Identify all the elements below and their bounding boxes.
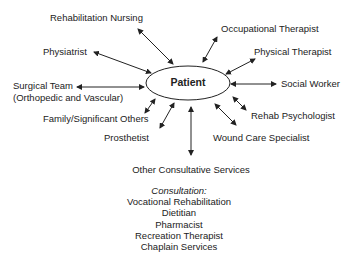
- node-prosthetist: Prosthetist: [104, 132, 149, 143]
- arrow-rehab-nursing: [138, 29, 173, 64]
- consultation-item: Pharmacist: [100, 219, 258, 230]
- node-occupational-therapist: Occupational Therapist: [221, 23, 319, 34]
- arrow-physiatrist: [94, 52, 151, 73]
- node-other-consultative: Other Consultative Services: [120, 164, 262, 175]
- patient-label: Patient: [160, 77, 216, 88]
- arrow-family: [145, 99, 155, 113]
- arrow-rehab-psychologist: [233, 97, 246, 110]
- node-physical-therapist: Physical Therapist: [254, 46, 331, 57]
- arrow-occupational-therapist: [203, 37, 217, 62]
- node-rehab-psychologist: Rehab Psychologist: [251, 110, 335, 121]
- node-surgical-team-sub: (Orthopedic and Vascular): [13, 92, 123, 103]
- node-family: Family/Significant Others: [43, 113, 149, 124]
- arrow-wound-care: [215, 104, 236, 125]
- node-rehab-nursing: Rehabilitation Nursing: [50, 12, 143, 23]
- node-physiatrist: Physiatrist: [43, 46, 87, 57]
- consultation-item: Vocational Rehabilitation: [100, 196, 258, 207]
- node-social-worker: Social Worker: [281, 78, 340, 89]
- consultation-heading: Consultation:: [100, 185, 258, 196]
- consultation-item: Dietitian: [100, 207, 258, 218]
- consultation-item: Recreation Therapist: [100, 230, 258, 241]
- arrow-physical-therapist: [226, 59, 255, 74]
- arrow-prosthetist: [160, 103, 174, 128]
- node-wound-care: Wound Care Specialist: [213, 132, 309, 143]
- node-surgical-team: Surgical Team: [13, 80, 73, 91]
- consultation-list: Consultation: Vocational Rehabilitation …: [100, 185, 258, 252]
- consultation-item: Chaplain Services: [100, 241, 258, 252]
